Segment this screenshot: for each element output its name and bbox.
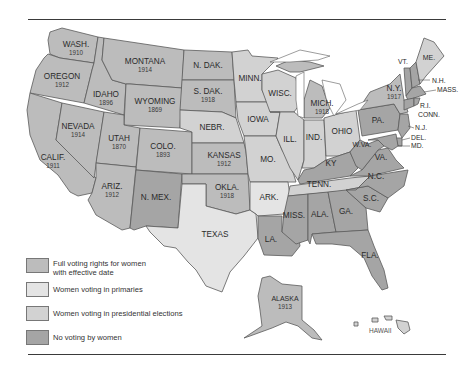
state-hawaii-maui[interactable]: [384, 316, 392, 320]
year-kansas: 1912: [217, 160, 232, 167]
label-md: MD.: [411, 142, 424, 149]
label-wisc: WISC.: [268, 89, 292, 98]
label-nmex: N. MEX.: [141, 193, 171, 202]
label-sc: S.C.: [363, 194, 379, 203]
label-ga: GA.: [339, 207, 353, 216]
state-hawaii-oahu[interactable]: [372, 318, 378, 322]
label-mo: MO.: [260, 155, 275, 164]
year-wash: 1910: [69, 49, 84, 56]
year-ariz: 1912: [105, 191, 120, 198]
year-colo: 1893: [156, 151, 171, 158]
label-ri: R.I.: [420, 102, 431, 109]
year-idaho: 1896: [99, 99, 114, 106]
label-ny: N.Y.: [387, 84, 402, 93]
label-ohio: OHIO: [332, 127, 353, 136]
label-fla: FLA.: [361, 251, 378, 260]
label-la: LA.: [265, 235, 277, 244]
label-minn: MINN.: [238, 74, 261, 83]
state-ind[interactable]: [302, 120, 326, 168]
label-wyoming: WYOMING: [135, 97, 176, 106]
label-ark: ARK.: [259, 193, 278, 202]
label-idaho: IDAHO: [93, 90, 119, 99]
label-mich: MICH.: [310, 99, 333, 108]
year-alaska: 1913: [278, 303, 293, 310]
label-pa: PA.: [372, 116, 385, 125]
year-oregon: 1912: [55, 81, 70, 88]
legend-item-presidential: Women voting in presidential elections: [26, 306, 182, 330]
label-nevada: NEVADA: [61, 122, 95, 131]
label-okla: OKLA.: [215, 183, 239, 192]
label-iowa: IOWA: [247, 115, 269, 124]
legend-swatch-none: [26, 330, 49, 345]
label-wash: WASH.: [63, 40, 90, 49]
label-wva: W.VA.: [353, 141, 372, 148]
label-nebr: NEBR.: [199, 123, 224, 132]
label-nh: N.H.: [432, 77, 446, 84]
legend-item-full: Full voting rights for women with effect…: [26, 258, 182, 282]
year-wyoming: 1869: [148, 106, 163, 113]
legend-label-full-line1: Full voting rights for women: [53, 259, 146, 268]
leader-mass: [424, 90, 436, 92]
label-alaska: ALASKA: [271, 295, 299, 302]
year-sdak: 1918: [201, 96, 216, 103]
label-tenn: TENN.: [307, 180, 332, 189]
label-calif: CALIF.: [41, 153, 66, 162]
label-miss: MISS.: [283, 211, 305, 220]
state-hawaii-kauai[interactable]: [354, 322, 358, 326]
legend-item-primaries: Women voting in primaries: [26, 282, 182, 306]
label-hawaii: HAWAII: [369, 327, 392, 334]
label-sdak: S. DAK.: [193, 87, 222, 96]
label-va: VA.: [375, 153, 388, 162]
label-ariz: ARIZ.: [102, 182, 123, 191]
legend-swatch-presidential: [26, 306, 49, 321]
leader-del: [402, 138, 410, 140]
label-ill: ILL.: [283, 135, 297, 144]
legend-label-none: No voting by women: [53, 330, 122, 342]
label-montana: MONTANA: [125, 57, 166, 66]
legend-label-primaries: Women voting in primaries: [53, 282, 143, 294]
label-ndak: N. DAK.: [193, 61, 223, 70]
label-texas: TEXAS: [202, 230, 229, 239]
label-nc: N.C.: [368, 172, 384, 181]
state-fla[interactable]: [312, 230, 388, 290]
year-nevada: 1914: [71, 131, 86, 138]
year-okla: 1918: [220, 192, 235, 199]
year-utah: 1870: [112, 143, 127, 150]
legend-item-none: No voting by women: [26, 330, 182, 354]
label-nj: N.J.: [415, 124, 427, 131]
year-mich: 1918: [315, 108, 330, 115]
label-conn: CONN.: [418, 111, 440, 118]
legend-label-presidential: Women voting in presidential elections: [53, 306, 182, 318]
legend-swatch-primaries: [26, 282, 49, 297]
label-me: ME.: [423, 54, 436, 61]
year-calif: 1911: [46, 162, 60, 169]
lake-superior: [270, 50, 330, 62]
label-vt: VT.: [398, 58, 408, 65]
label-ky: KY: [326, 159, 337, 168]
lake-michigan: [296, 72, 304, 118]
year-ny: 1917: [387, 93, 402, 100]
label-ala: ALA.: [311, 210, 329, 219]
label-ind: IND.: [306, 133, 322, 142]
map-legend: Full voting rights for women with effect…: [26, 258, 182, 354]
label-mass: MASS.: [437, 86, 458, 93]
state-hawaii-big[interactable]: [396, 320, 410, 334]
state-conn[interactable]: [404, 98, 414, 110]
label-utah: UTAH: [108, 134, 130, 143]
legend-swatch-full: [26, 258, 49, 273]
legend-label-full-line2: with effective date: [53, 268, 146, 277]
label-oregon: OREGON: [44, 72, 80, 81]
label-colo: COLO.: [150, 142, 175, 151]
label-del: DEL.: [411, 134, 426, 141]
label-kansas: KANSAS: [207, 151, 241, 160]
legend-label-full: Full voting rights for women with effect…: [53, 258, 146, 277]
year-montana: 1914: [138, 66, 153, 73]
